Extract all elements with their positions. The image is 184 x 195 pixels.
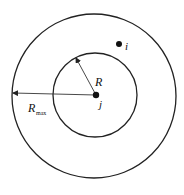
- label-rmax-sub: max: [36, 110, 46, 116]
- label-i: i: [125, 40, 128, 52]
- point-i: [116, 41, 122, 47]
- label-j: j: [97, 98, 102, 110]
- radius-diagram: R j i R max: [0, 0, 184, 195]
- rmax-arrow: [13, 93, 96, 95]
- label-rmax: R: [27, 101, 36, 115]
- label-r: R: [94, 75, 103, 89]
- r-arrow: [76, 58, 96, 95]
